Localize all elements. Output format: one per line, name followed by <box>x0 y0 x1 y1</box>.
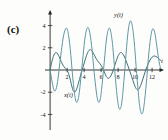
x-tick-label: 2 <box>66 73 69 80</box>
panel-label-c: (c) <box>7 24 19 35</box>
x-tick-label: 4 <box>83 73 86 80</box>
y-tick-label: -4 <box>40 111 45 118</box>
x-tick-label: 8 <box>117 73 120 80</box>
curve-label-y: y(t) <box>113 11 123 19</box>
series-curve-y <box>50 21 161 114</box>
figure-panel: (c) 2468101242-2-4 y(t)x(t)t <box>0 0 168 140</box>
x-tick-label: 12 <box>149 73 155 80</box>
y-tick-label: 4 <box>43 22 46 29</box>
series-curve-x <box>50 50 161 93</box>
signal-plot: 2468101242-2-4 y(t)x(t)t <box>35 4 168 140</box>
y-tick-label: -2 <box>40 88 45 95</box>
y-tick-label: 2 <box>43 44 46 51</box>
curves-group <box>50 21 161 114</box>
curve-label-x: x(t) <box>63 91 73 99</box>
plot-area: 2468101242-2-4 y(t)x(t)t <box>35 4 168 140</box>
x-axis-name: t <box>161 57 163 64</box>
y-axis-arrow-icon <box>48 10 52 15</box>
